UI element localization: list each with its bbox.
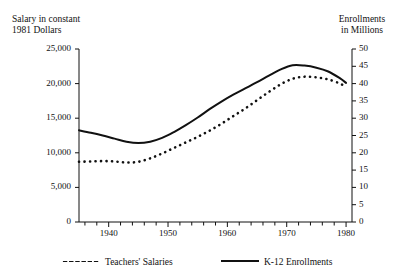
y2-axis-tick-label: 25: [359, 131, 389, 140]
legend-item-k12-enrollments: K-12 Enrollments: [221, 256, 332, 267]
y-axis-tick-label: 0: [25, 217, 71, 226]
y2-axis-tick-label: 35: [359, 96, 389, 105]
y-axis-tick-label: 5,000: [25, 182, 71, 191]
x-axis-tick-label: 1940: [89, 229, 129, 238]
chart-figure: Salary in constant 1981 Dollars Enrollme…: [0, 0, 410, 280]
x-axis-tick-label: 1950: [148, 229, 188, 238]
series-line-1: [79, 65, 346, 143]
y2-axis-tick-label: 10: [359, 182, 389, 191]
y2-axis-tick-label: 20: [359, 148, 389, 157]
left-axis-title: Salary in constant 1981 Dollars: [12, 14, 80, 36]
y2-axis-tick-label: 5: [359, 200, 389, 209]
y-axis-tick-label: 20,000: [25, 79, 71, 88]
y2-axis-tick-label: 50: [359, 44, 389, 53]
y2-axis-tick-label: 15: [359, 165, 389, 174]
y2-axis-tick-label: 0: [359, 217, 389, 226]
x-axis-tick-label: 1980: [326, 229, 366, 238]
x-axis-tick-label: 1970: [267, 229, 307, 238]
y-axis-tick-label: 15,000: [25, 113, 71, 122]
y2-axis-tick-label: 30: [359, 113, 389, 122]
y2-axis-tick-label: 40: [359, 79, 389, 88]
legend-label-teachers-salaries: Teachers' Salaries: [105, 257, 173, 267]
data-series-layer: [79, 65, 346, 163]
legend-label-k12-enrollments: K-12 Enrollments: [264, 257, 332, 267]
series-line-0: [79, 77, 346, 163]
x-axis-tick-label: 1960: [207, 229, 247, 238]
plot-area: [0, 0, 410, 280]
y-axis-tick-label: 25,000: [25, 44, 71, 53]
y-axis-tick-label: 10,000: [25, 148, 71, 157]
legend-item-teachers-salaries: Teachers' Salaries: [62, 256, 173, 267]
legend-dotted-swatch-icon: [62, 260, 100, 263]
axis-lines: [79, 49, 352, 222]
axis-ticks: [75, 49, 356, 227]
y2-axis-tick-label: 45: [359, 61, 389, 70]
legend-solid-swatch-icon: [221, 260, 259, 262]
right-axis-title: Enrollments in Millions: [322, 14, 402, 36]
